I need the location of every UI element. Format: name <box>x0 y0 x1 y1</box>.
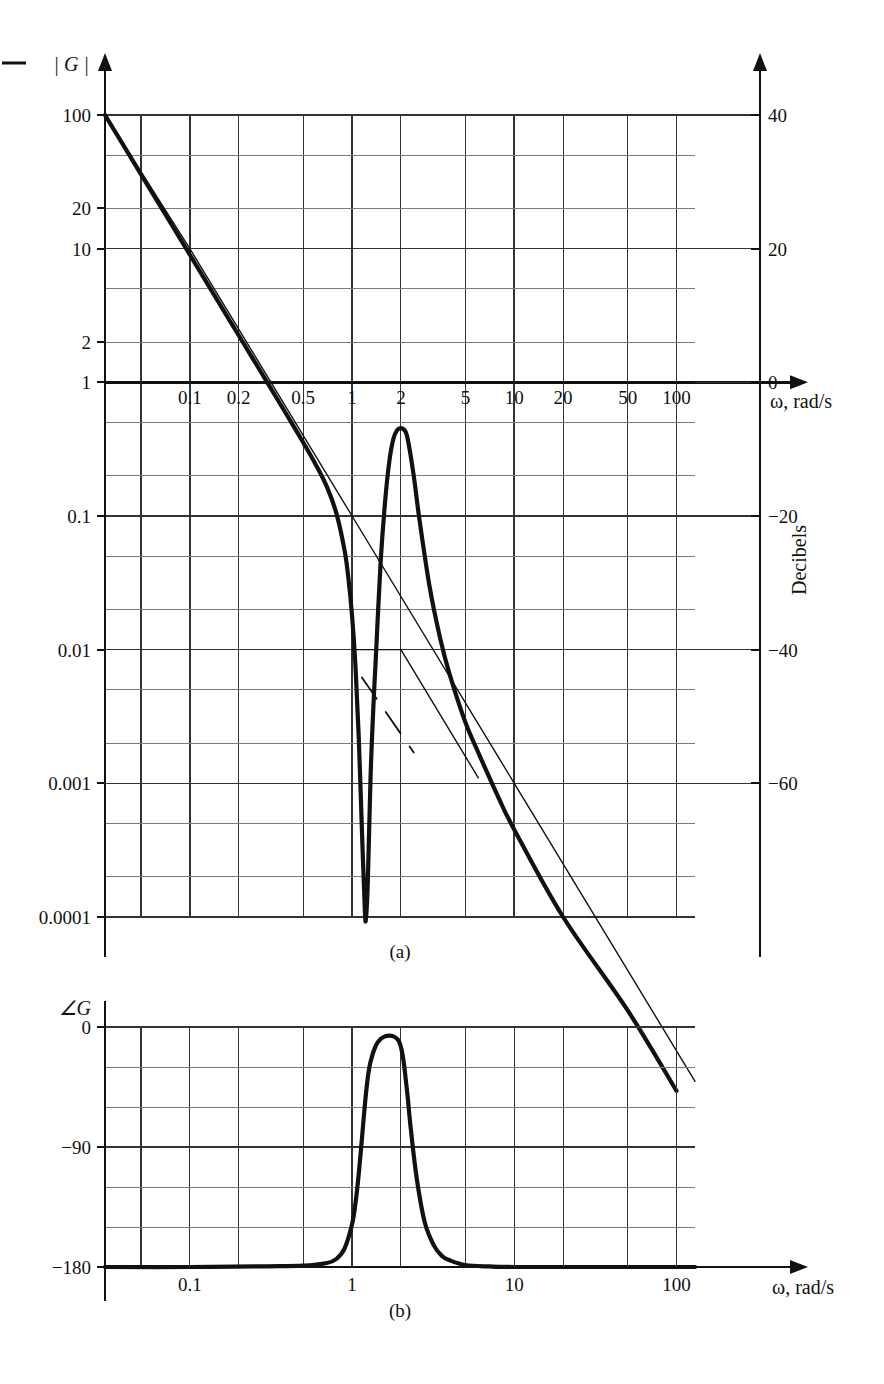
panel-b-caption: (b) <box>389 1300 411 1322</box>
y-axis-name-b: ∠G <box>59 997 92 1019</box>
y-tick-label-a-100: 100 <box>63 105 92 126</box>
right-axis-name-decibels: Decibels <box>788 525 810 595</box>
db-tick-label--20: −20 <box>768 506 798 527</box>
x-tick-label-b-1: 1 <box>347 1274 357 1295</box>
x-axis-name-b: ω, rad/s <box>772 1276 834 1298</box>
y-tick-label-a-0.1: 0.1 <box>67 506 91 527</box>
x-tick-label-a-5: 5 <box>461 387 471 408</box>
y-tick-label-a-0.001: 0.001 <box>48 773 91 794</box>
bode-figure: 1002010210.10.010.0010.00010.10.20.51251… <box>0 0 884 1384</box>
x-tick-label-a-0.1: 0.1 <box>178 387 202 408</box>
y-tick-label-a-0.0001: 0.0001 <box>39 907 91 928</box>
x-tick-label-a-10: 10 <box>505 387 524 408</box>
y-tick-label-b--180: −180 <box>52 1257 91 1278</box>
y-tick-label-a-10: 10 <box>72 239 91 260</box>
y-tick-label-b-0: 0 <box>82 1017 92 1038</box>
x-tick-label-a-1: 1 <box>347 387 357 408</box>
panel-a-caption: (a) <box>389 941 410 963</box>
db-tick-label--40: −40 <box>768 640 798 661</box>
y-tick-label-a-20: 20 <box>72 198 91 219</box>
db-tick-label-40: 40 <box>768 105 787 126</box>
page-background <box>0 0 884 1384</box>
x-tick-label-b-0.1: 0.1 <box>178 1274 202 1295</box>
figure-root: 1002010210.10.010.0010.00010.10.20.51251… <box>0 0 884 1384</box>
x-tick-label-a-100: 100 <box>662 387 691 408</box>
db-tick-label-20: 20 <box>768 239 787 260</box>
x-tick-label-a-0.5: 0.5 <box>291 387 315 408</box>
y-axis-name-a: | G | <box>54 53 89 76</box>
x-axis-name-a: ω, rad/s <box>770 390 832 412</box>
x-tick-label-a-20: 20 <box>554 387 573 408</box>
db-tick-label--60: −60 <box>768 773 798 794</box>
x-tick-label-a-0.2: 0.2 <box>227 387 251 408</box>
y-tick-label-b--90: −90 <box>61 1137 91 1158</box>
y-tick-label-a-0.01: 0.01 <box>58 640 91 661</box>
y-tick-label-a-1: 1 <box>82 372 92 393</box>
x-tick-label-b-10: 10 <box>505 1274 524 1295</box>
x-tick-label-a-2: 2 <box>396 387 406 408</box>
y-tick-label-a-2: 2 <box>82 332 92 353</box>
x-tick-label-b-100: 100 <box>662 1274 691 1295</box>
x-tick-label-a-50: 50 <box>618 387 637 408</box>
